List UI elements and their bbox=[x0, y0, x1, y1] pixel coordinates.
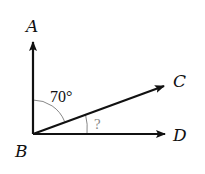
point-label-a: A bbox=[26, 18, 38, 35]
point-label-b: B bbox=[15, 143, 28, 160]
angle-label-cbd: ? bbox=[94, 117, 101, 132]
angle-arc-cbd bbox=[86, 115, 88, 135]
point-label-c: C bbox=[173, 73, 186, 90]
point-label-d: D bbox=[173, 127, 187, 144]
angle-label-abc: 70° bbox=[50, 89, 72, 105]
